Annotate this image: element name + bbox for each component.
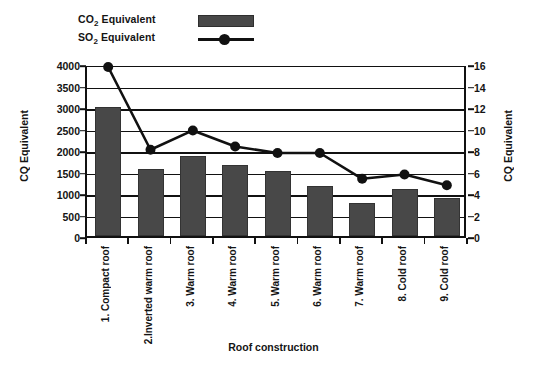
right-axis-tickmark [468,194,474,196]
right-axis-tick-label: 4 [474,189,498,201]
right-axis-tickmark [468,173,474,175]
legend-item-co2: CO2 Equivalent [78,12,308,30]
plot-area [85,66,466,238]
line-marker [273,148,283,158]
right-axis-tick-label: 10 [474,125,498,137]
right-axis-tickmark [468,216,474,218]
legend-item-so2: SO2 Equivalent [78,30,308,48]
left-axis-tick-label: 1000 [40,189,80,201]
line-marker [188,125,198,135]
right-axis-tick-label: 14 [474,82,498,94]
line-marker [103,62,113,72]
legend-label-co2: CO2 Equivalent [78,13,198,28]
chart-legend: CO2 Equivalent SO2 Equivalent [78,12,308,48]
left-axis-tick-label: 4000 [40,60,80,72]
x-axis-tickmark [466,238,468,244]
x-axis-labels: 1. Compact roof2.Inverted warm roof3. Wa… [85,246,466,336]
right-axis-title: CQ Equivalent [502,110,514,182]
x-axis-tickmark [254,238,256,244]
line-marker [357,174,367,184]
legend-label-co2-rest: Equivalent [99,13,156,25]
legend-label-so2: SO2 Equivalent [78,31,198,46]
line-path [108,67,447,185]
left-axis-tick-label: 0 [40,232,80,244]
x-axis-label: 2.Inverted warm roof [143,246,154,344]
legend-label-so2-main: SO [78,31,93,43]
x-axis-label: 7. Warm roof [354,246,365,307]
line-marker [230,142,240,152]
x-axis-tickmark [424,238,426,244]
right-axis-tickmark [468,87,474,89]
right-axis-tickmark [468,130,474,132]
line-marker [400,170,410,180]
x-axis-label: 8. Cold roof [397,246,408,302]
left-axis-tick-label: 500 [40,211,80,223]
left-axis-tick-label: 2500 [40,125,80,137]
x-axis-tickmark [170,238,172,244]
left-axis-tick-label: 3500 [40,82,80,94]
legend-key-co2 [198,15,274,27]
legend-key-so2 [198,34,274,44]
left-axis-tick-label: 1500 [40,168,80,180]
x-axis-tickmark [339,238,341,244]
left-axis-tick-label: 3000 [40,103,80,115]
x-axis-label: 9. Cold roof [439,246,450,302]
x-axis-tickmark [212,238,214,244]
left-axis-ticks: 05001000150020002500300035004000 [36,66,80,238]
line-marker [315,148,325,158]
right-axis-tick-label: 6 [474,168,498,180]
line-marker [442,180,452,190]
x-axis-tickmark [127,238,129,244]
x-axis-tickmark [297,238,299,244]
x-axis-label: 4. Warm roof [227,246,238,307]
x-axis-label: 1. Compact roof [100,246,111,322]
right-axis-tickmark [468,108,474,110]
line-marker [146,145,156,155]
legend-label-so2-rest: Equivalent [98,31,155,43]
right-axis-tick-label: 12 [474,103,498,115]
x-axis-tickmark [85,238,87,244]
right-axis-tickmark [468,65,474,67]
legend-label-co2-main: CO [78,13,94,25]
right-axis-tick-label: 0 [474,232,498,244]
line-series [87,67,468,239]
left-axis-title: CQ Equivalent [18,110,30,182]
right-axis-tickmark [468,151,474,153]
right-axis-tick-label: 2 [474,211,498,223]
x-axis-label: 3. Warm roof [185,246,196,307]
left-axis-tick-label: 2000 [40,146,80,158]
x-axis-tickmarks [85,238,466,245]
x-axis-tickmark [381,238,383,244]
right-axis-ticks: 0246810121416 [474,66,500,238]
x-axis-title: Roof construction [0,341,547,353]
x-axis-label: 5. Warm roof [270,246,281,307]
x-axis-label: 6. Warm roof [312,246,323,307]
right-axis-tick-label: 8 [474,146,498,158]
chart-figure: CO2 Equivalent SO2 Equivalent CQ Equival… [0,0,547,376]
bar-swatch-icon [198,15,254,27]
right-axis-tickmark [468,237,474,239]
line-swatch-icon [198,34,254,44]
right-axis-tick-label: 16 [474,60,498,72]
